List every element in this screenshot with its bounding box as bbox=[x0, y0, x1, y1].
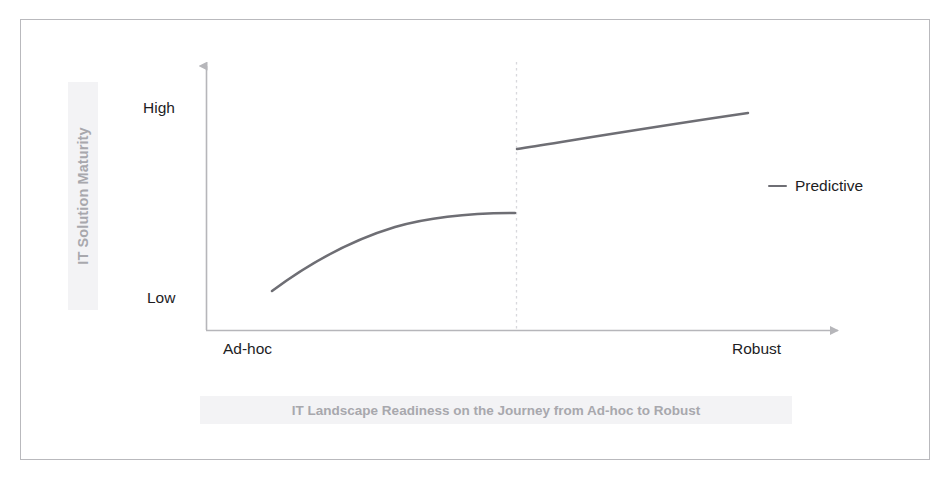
y-axis-tick-low: Low bbox=[147, 289, 175, 307]
legend-label-predictive: Predictive bbox=[795, 177, 863, 195]
chart-figure: IT Solution Maturity High Low Ad-hoc Rob… bbox=[0, 0, 950, 478]
x-axis-tick-robust: Robust bbox=[732, 340, 781, 358]
figure-border bbox=[20, 19, 930, 460]
caption-text: IT Landscape Readiness on the Journey fr… bbox=[292, 403, 700, 418]
caption-band: IT Landscape Readiness on the Journey fr… bbox=[200, 396, 792, 424]
y-axis-title-label: IT Solution Maturity bbox=[75, 127, 91, 264]
y-axis-tick-high: High bbox=[143, 99, 175, 117]
y-axis-title: IT Solution Maturity bbox=[68, 82, 98, 310]
legend: Predictive bbox=[768, 177, 863, 195]
legend-line-swatch bbox=[768, 185, 787, 187]
x-axis-tick-ad-hoc: Ad-hoc bbox=[223, 340, 272, 358]
